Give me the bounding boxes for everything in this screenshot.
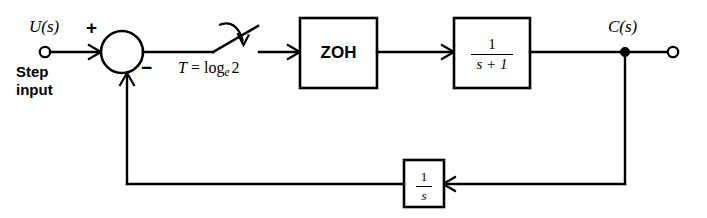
plant-block-fraction: 1 s + 1 <box>454 36 530 73</box>
sum-plus-sign: + <box>86 18 97 38</box>
diagram-vector-layer <box>0 0 707 218</box>
plant-fraction-bar <box>471 54 513 55</box>
feedback-fraction-bar <box>416 186 432 187</box>
sampler-equals: = <box>191 59 200 76</box>
zoh-block-label: ZOH <box>300 43 377 63</box>
plant-numerator: 1 <box>454 36 530 53</box>
feedback-numerator: 1 <box>404 169 444 185</box>
feedback-denominator: s <box>404 188 444 204</box>
step-input-label-line1: Step <box>16 63 49 80</box>
summing-junction-circle <box>101 31 143 73</box>
sampler-T-symbol: T <box>178 59 187 76</box>
sampler-log-text: log <box>204 59 224 76</box>
block-diagram-canvas: U(s) Step input + − T = loge2 ZOH 1 s + … <box>0 0 707 218</box>
sampler-switch-blade <box>213 26 258 52</box>
sum-minus-sign: − <box>141 58 152 78</box>
output-signal-label: C(s) <box>608 18 637 36</box>
input-terminal-circle <box>40 47 50 57</box>
sampler-log-base: e <box>224 66 229 78</box>
output-terminal-circle <box>668 47 678 57</box>
step-input-label-line2: input <box>16 81 53 98</box>
sampler-log-argument: 2 <box>230 59 240 76</box>
input-signal-label: U(s) <box>29 18 59 36</box>
sampler-period-label: T = loge2 <box>178 60 240 78</box>
plant-denominator: s + 1 <box>454 56 530 73</box>
feedback-block-fraction: 1 s <box>404 169 444 204</box>
